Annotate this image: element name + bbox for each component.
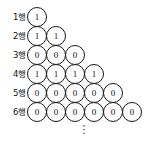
table-row: 4행 1 1 1 1 (0, 64, 103, 84)
cell: 1 (27, 26, 47, 46)
vertical-ellipsis: ⋮ (78, 124, 90, 135)
row-label-4: 4행 (0, 69, 27, 79)
row-cells-3: 0 0 0 (27, 45, 84, 65)
row-cells-5: 0 0 0 0 0 (27, 83, 122, 103)
cell: 0 (46, 83, 66, 103)
cell: 0 (46, 45, 66, 65)
cell: 0 (27, 45, 47, 65)
cell: 0 (46, 102, 66, 122)
cell: 1 (46, 26, 66, 46)
row-cells-2: 1 1 (27, 26, 65, 46)
row-label-6: 6행 (0, 107, 27, 117)
cell: 0 (103, 102, 123, 122)
cell: 1 (65, 64, 85, 84)
row-cells-4: 1 1 1 1 (27, 64, 103, 84)
cell: 0 (103, 83, 123, 103)
cell: 0 (65, 45, 85, 65)
table-row: 6행 0 0 0 0 0 0 (0, 102, 141, 122)
row-label-2: 2행 (0, 31, 27, 41)
cell: 0 (65, 102, 85, 122)
cell: 0 (65, 83, 85, 103)
cell: 1 (84, 64, 104, 84)
cell: 1 (27, 7, 47, 27)
cell: 0 (84, 83, 104, 103)
row-cells-6: 0 0 0 0 0 0 (27, 102, 141, 122)
table-row: 5행 0 0 0 0 0 (0, 83, 122, 103)
row-label-5: 5행 (0, 88, 27, 98)
cell: 0 (84, 102, 104, 122)
table-row: 2행 1 1 (0, 26, 65, 46)
row-label-3: 3행 (0, 50, 27, 60)
cell: 0 (27, 102, 47, 122)
cell: 1 (46, 64, 66, 84)
row-cells-1: 1 (27, 7, 46, 27)
table-row: 1행 1 (0, 7, 46, 27)
row-label-1: 1행 (0, 12, 27, 22)
cell: 0 (122, 102, 142, 122)
cell: 0 (27, 83, 47, 103)
table-row: 3행 0 0 0 (0, 45, 84, 65)
cell: 1 (27, 64, 47, 84)
number-triangle-figure: 1행 1 2행 1 1 3행 0 0 0 4행 1 1 1 1 5행 0 0 (0, 0, 152, 142)
